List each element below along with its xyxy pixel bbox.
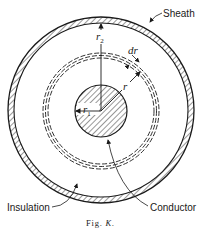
- conductor-label: Conductor: [150, 202, 197, 213]
- insulation-label: Insulation: [7, 202, 50, 213]
- sheath-leader: [150, 13, 162, 22]
- r-label: r: [123, 80, 128, 92]
- figure-caption: Fig. K.: [86, 218, 115, 228]
- dr-label: dr: [128, 44, 139, 56]
- coaxial-cable-cross-section-diagram: r2 r1 r dr Sheath Insulation Conductor F…: [0, 0, 210, 230]
- sheath-label: Sheath: [163, 8, 195, 19]
